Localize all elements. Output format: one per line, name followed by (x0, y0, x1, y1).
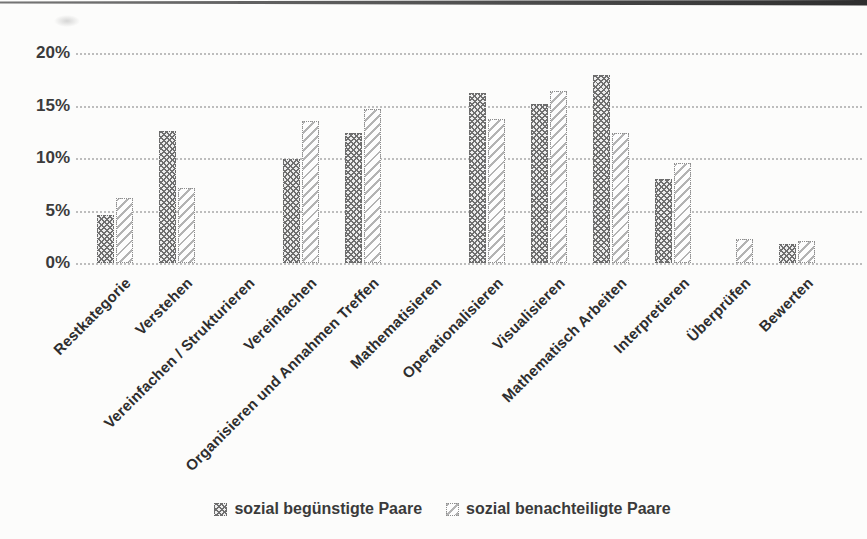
bar-series1-9 (593, 75, 610, 263)
category-label: Überprüfen (683, 274, 754, 345)
y-axis-label-15%: 15% (22, 96, 70, 116)
y-axis-label-10%: 10% (22, 148, 70, 168)
bar-series2-11 (736, 239, 753, 263)
bar-series1-4 (283, 159, 300, 263)
category-label: Restkategorie (50, 274, 134, 358)
bar-series2-4 (302, 121, 319, 263)
bar-series2-5 (364, 109, 381, 263)
bar-series1-12 (779, 244, 796, 263)
bar-series1-7 (469, 93, 486, 263)
scan-top-edge-line (0, 0, 867, 7)
bar-series1-2 (159, 131, 176, 263)
bar-series2-1 (116, 198, 133, 263)
legend: sozial begünstigte Paare sozial benachte… (18, 500, 867, 518)
scan-smudge-artifact (54, 15, 80, 27)
y-axis-label-20%: 20% (22, 43, 70, 63)
gridline-20% (76, 53, 862, 55)
legend-swatch-diagonal-hatch (446, 503, 459, 516)
bar-series2-12 (798, 241, 815, 263)
legend-label-series-2: sozial benachteiligte Paare (466, 500, 671, 518)
legend-item-sozial-benachteiligte-paare: sozial benachteiligte Paare (446, 500, 671, 518)
legend-swatch-crosshatch (214, 503, 227, 516)
y-axis-label-0%: 0% (22, 253, 70, 273)
bar-series2-2 (178, 188, 195, 263)
bar-series2-7 (488, 119, 505, 263)
bar-series2-9 (612, 133, 629, 263)
bar-series1-5 (345, 133, 362, 263)
legend-item-sozial-beguenstigte-paare: sozial begünstigte Paare (214, 500, 422, 518)
category-label: Mathematisch Arbeiten (499, 274, 630, 405)
bar-series2-10 (674, 163, 691, 263)
category-label: Bewerten (755, 274, 816, 335)
bar-series1-10 (655, 179, 672, 263)
bar-series2-8 (550, 91, 567, 263)
scanned-bar-chart-page: 0%5%10%15%20%RestkategorieVerstehenVerei… (0, 0, 867, 539)
legend-label-series-1: sozial begünstigte Paare (234, 500, 422, 518)
bar-series1-1 (97, 215, 114, 263)
y-axis-label-5%: 5% (22, 201, 70, 221)
category-label: Verstehen (132, 274, 196, 338)
bar-series1-8 (531, 104, 548, 263)
gridline-0% (76, 263, 862, 265)
